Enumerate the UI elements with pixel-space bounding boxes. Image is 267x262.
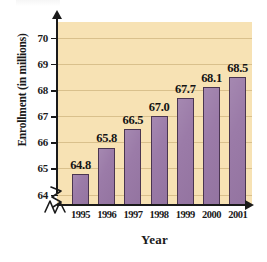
top-edge-artifact — [16, 0, 60, 6]
y-axis-line — [56, 17, 58, 193]
gridline — [57, 38, 252, 39]
bar-value-label: 67.0 — [138, 101, 180, 114]
y-axis-tick — [51, 64, 58, 66]
y-axis-tick — [51, 90, 58, 92]
y-axis-tick — [51, 168, 58, 170]
bar-value-label: 66.5 — [112, 114, 154, 127]
enrollment-bar-chart: 70696867666564 1995199619971998199920002… — [0, 0, 267, 262]
y-axis-arrow-icon — [52, 10, 62, 19]
bar — [203, 87, 220, 205]
bar-value-label: 64.8 — [60, 159, 102, 172]
x-axis-tick-label: 2001 — [221, 209, 255, 220]
y-axis-tick — [51, 195, 58, 197]
bar-value-label: 65.8 — [86, 132, 128, 145]
gridline — [57, 90, 252, 91]
bar — [229, 77, 246, 205]
bar — [151, 116, 168, 205]
y-axis-tick-label-text: 65 — [18, 163, 48, 174]
y-axis-tick — [51, 38, 58, 40]
y-axis-tick — [51, 116, 58, 118]
bar-value-label: 68.5 — [217, 62, 259, 75]
x-axis-line — [57, 204, 246, 206]
y-axis-tick — [51, 142, 58, 144]
bar — [72, 174, 89, 205]
y-axis-title: Enrollment (in millions) — [16, 15, 28, 165]
y-axis-tick-label: 65 — [16, 163, 48, 174]
bar — [98, 148, 115, 206]
y-axis-tick-label-text: 64 — [18, 190, 48, 201]
y-axis-tick-label: 64 — [16, 190, 48, 201]
x-axis-title: Year — [57, 233, 252, 247]
